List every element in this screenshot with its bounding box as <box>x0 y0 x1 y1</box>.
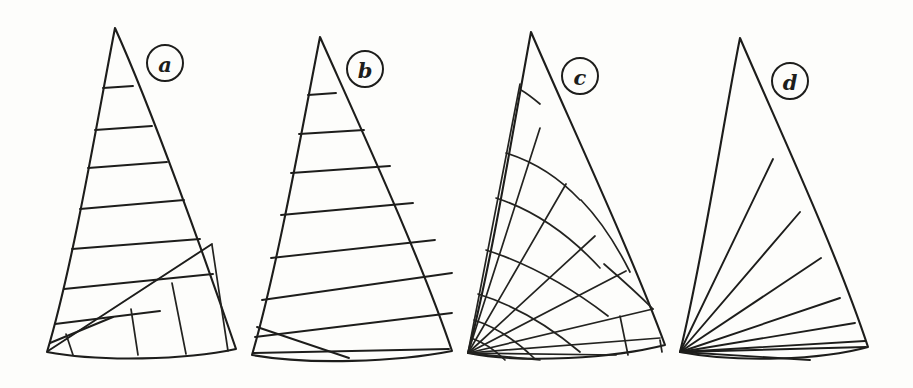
panel-d: d <box>680 38 868 360</box>
panel-c: c <box>468 32 665 360</box>
panel-a: a <box>47 28 236 358</box>
panel-label-c: c <box>562 58 598 94</box>
panel-label-b: b <box>347 51 383 87</box>
sail-cut-figure: a b <box>0 0 913 388</box>
panel-b: b <box>252 37 452 361</box>
figure-canvas: a b <box>0 0 913 388</box>
panel-label-a: a <box>147 45 183 81</box>
sail-outline-b <box>252 37 452 361</box>
label-letter-c: c <box>574 65 587 90</box>
sail-outline-c <box>468 32 665 359</box>
label-letter-b: b <box>358 58 373 83</box>
panel-label-d: d <box>772 63 808 99</box>
label-letter-a: a <box>158 52 172 77</box>
sail-outline-a <box>47 28 236 358</box>
sail-outline-d <box>680 38 868 359</box>
label-letter-d: d <box>783 70 798 95</box>
